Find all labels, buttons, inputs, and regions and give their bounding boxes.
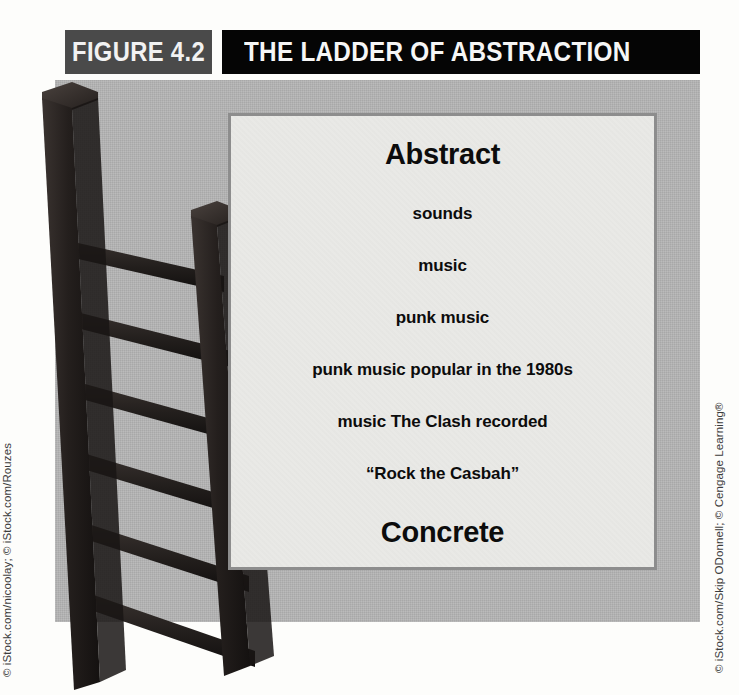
figure-header-bar: FIGURE 4.2 THE LADDER OF ABSTRACTION	[55, 30, 700, 74]
ladder-step-punk-music: punk music	[241, 308, 644, 328]
ladder-step-abstract: Abstract	[241, 138, 644, 171]
credit-right: © iStock.com/Skip ODonnell; © Cengage Le…	[713, 403, 725, 673]
ladder-step-rock-the-casbah: “Rock the Casbah”	[241, 464, 644, 484]
credit-left: © iStock.com/nicoolay; © iStock.com/Rouz…	[1, 443, 13, 677]
figure-title-block: THE LADDER OF ABSTRACTION	[222, 30, 700, 74]
ladder-step-the-clash: music The Clash recorded	[241, 412, 644, 432]
figure-root: FIGURE 4.2 THE LADDER OF ABSTRACTION	[0, 0, 739, 695]
ladder-step-music: music	[241, 256, 644, 276]
ladder-step-punk-music-1980s: punk music popular in the 1980s	[241, 360, 644, 380]
ladder-step-sounds: sounds	[241, 204, 644, 224]
ladder-step-concrete: Concrete	[241, 516, 644, 549]
abstraction-step-list: Abstract sounds music punk music punk mu…	[231, 116, 654, 567]
figure-title: THE LADDER OF ABSTRACTION	[244, 37, 631, 68]
abstraction-ladder-box: Abstract sounds music punk music punk mu…	[228, 113, 657, 570]
figure-number-label: FIGURE 4.2	[65, 30, 212, 74]
